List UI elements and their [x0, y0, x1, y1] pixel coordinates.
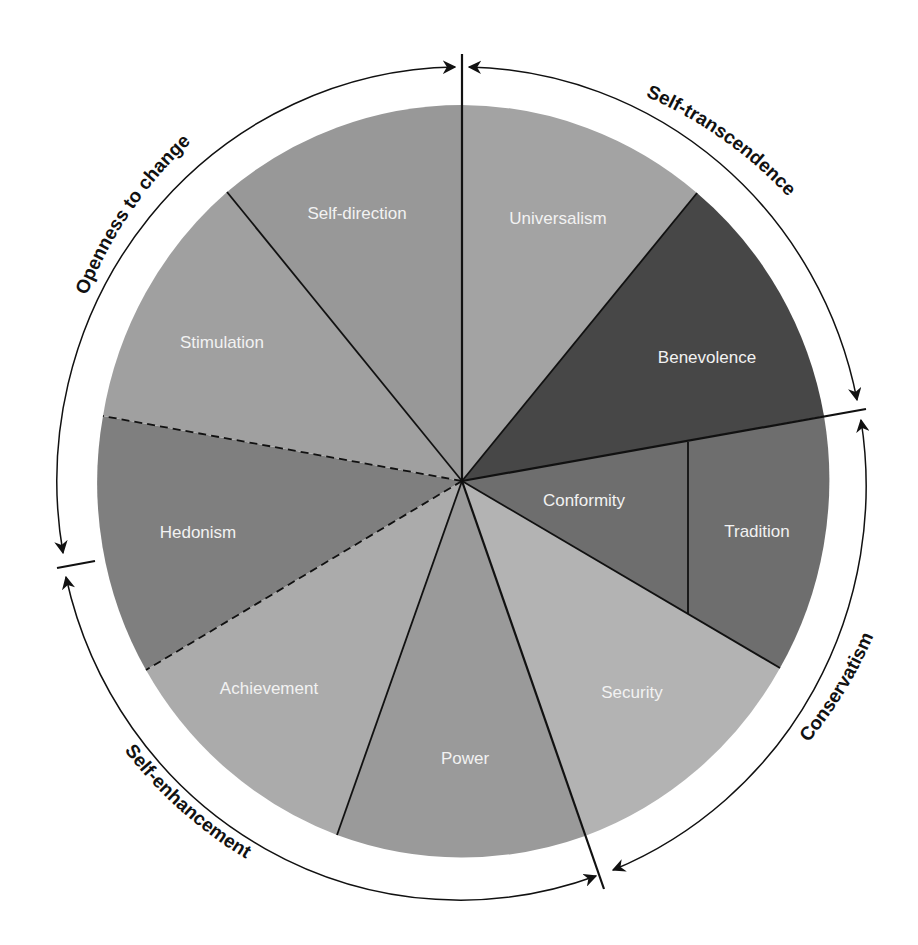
- label-achievement: Achievement: [220, 679, 319, 698]
- label-universalism: Universalism: [509, 209, 606, 228]
- label-benevolence: Benevolence: [658, 348, 756, 367]
- label-power: Power: [441, 749, 490, 768]
- label-conformity: Conformity: [543, 491, 626, 510]
- group-label-conservatism: Conservatism: [795, 629, 877, 745]
- values-circle-diagram: Universalism Benevolence Conformity Trad…: [0, 0, 918, 945]
- label-security: Security: [601, 683, 663, 702]
- label-hedonism: Hedonism: [160, 523, 237, 542]
- label-self-direction: Self-direction: [307, 204, 406, 223]
- label-stimulation: Stimulation: [180, 333, 264, 352]
- label-tradition: Tradition: [724, 522, 790, 541]
- boundary-left-divider: [57, 561, 95, 568]
